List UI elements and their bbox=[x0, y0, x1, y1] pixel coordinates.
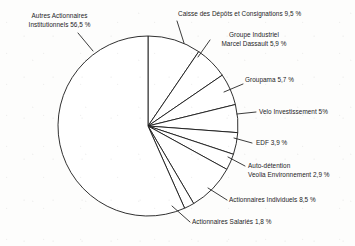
label-actionnaires-individuels: Actionnaires Individuels 8,5 % bbox=[229, 196, 316, 205]
label-dassault-line2: Marcel Dassault 5,9 % bbox=[205, 40, 303, 49]
pie-chart-figure: Caisse des Dépôts et Consignations 9,5 %… bbox=[0, 0, 355, 246]
label-velo-investissement: Velo Investissement 5% bbox=[259, 108, 328, 117]
label-veolia-line1: Auto-détention bbox=[248, 162, 330, 171]
label-auto-detention-veolia-environnement: Auto-détention Veolia Environnement 2,9 … bbox=[248, 162, 330, 179]
label-veolia-line2: Veolia Environnement 2,9 % bbox=[248, 171, 330, 180]
label-autres-line1: Autres Actionnaires bbox=[12, 12, 107, 21]
label-autres-line2: Institutionnels 56,5 % bbox=[12, 21, 107, 30]
label-caisse-des-depots-et-consignations: Caisse des Dépôts et Consignations 9,5 % bbox=[178, 10, 301, 19]
leader-line-velo-investissement bbox=[237, 112, 256, 114]
label-groupama: Groupama 5,7 % bbox=[245, 76, 294, 85]
label-groupe-industriel-marcel-dassault: Groupe Industriel Marcel Dassault 5,9 % bbox=[205, 31, 303, 48]
label-autres-actionnaires-institutionnels: Autres Actionnaires Institutionnels 56,5… bbox=[12, 12, 107, 29]
label-edf: EDF 3,9 % bbox=[256, 139, 287, 148]
leader-line-actionnaires-individuels bbox=[208, 188, 227, 200]
label-dassault-line1: Groupe Industriel bbox=[205, 31, 303, 40]
pie-slice-group: Caisse des Dépôts et Consignations 9,5 %… bbox=[58, 36, 238, 216]
leader-line-autres-institutionnels bbox=[78, 33, 93, 51]
label-actionnaires-salaries: Actionnaires Salariés 1,8 % bbox=[192, 218, 272, 227]
leader-line-caisse-des-depots bbox=[177, 21, 184, 43]
